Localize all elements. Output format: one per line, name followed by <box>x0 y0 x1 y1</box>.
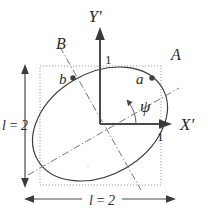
y-axis-label: Y' <box>88 7 101 26</box>
point-marker-b <box>70 75 75 80</box>
bottom-dimension-arrow-left <box>24 195 34 203</box>
point-a-label: a <box>136 71 144 87</box>
left-dimension-label: l = 2 <box>2 118 28 133</box>
geometry-diagram: Y' X' A B a b ψ 1 1 l = 2 l = 2 <box>0 0 208 214</box>
ray-b-label: B <box>56 35 66 52</box>
left-dimension-arrow-top <box>21 64 29 74</box>
psi-angle-label: ψ <box>140 97 151 116</box>
left-dimension-arrow-bottom <box>21 178 29 188</box>
x-axis-label: X' <box>179 115 194 134</box>
ray-a-label: A <box>170 46 181 63</box>
y-axis-arrowhead <box>95 27 105 40</box>
psi-arc-arrowhead <box>127 100 133 107</box>
bottom-dimension-label: l = 2 <box>89 193 115 208</box>
point-b-label: b <box>59 71 67 87</box>
point-marker-a <box>149 75 154 80</box>
scan-speck <box>87 165 89 167</box>
y-unit-label: 1 <box>105 52 112 67</box>
figure-canvas: Y' X' A B a b ψ 1 1 l = 2 l = 2 <box>0 0 208 214</box>
bottom-dimension-arrow-right <box>166 195 176 203</box>
x-unit-label: 1 <box>157 129 164 144</box>
